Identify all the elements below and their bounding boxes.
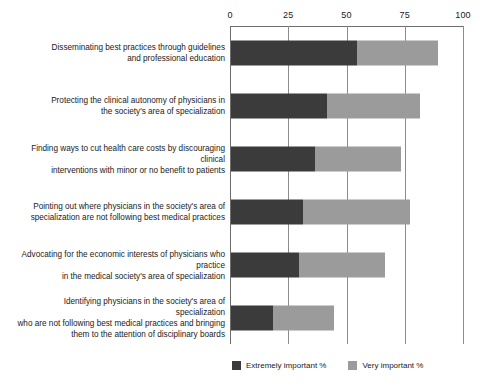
bar-segment-very-important[interactable] — [303, 199, 410, 224]
legend-item[interactable]: Very important % — [348, 361, 423, 370]
bar-row-label-line: Advocating for the economic interests of… — [15, 248, 225, 270]
bar-segment-very-important[interactable] — [357, 40, 439, 65]
stacked-bar[interactable] — [231, 40, 438, 65]
bar-row: Identifying physicians in the society's … — [0, 291, 490, 344]
bar-row: Disseminating best practices through gui… — [0, 26, 490, 79]
stacked-bar[interactable] — [231, 199, 410, 224]
bar-row-label-line: Disseminating best practices through gui… — [15, 42, 225, 53]
stacked-bar[interactable] — [231, 252, 385, 277]
bar-row-label: Pointing out where physicians in the soc… — [15, 201, 225, 223]
legend-item[interactable]: Extremely important % — [232, 361, 326, 370]
bar-segment-very-important[interactable] — [299, 252, 385, 277]
bar-row: Finding ways to cut health care costs by… — [0, 132, 490, 185]
bar-row-label-line: them to the attention of disciplinary bo… — [15, 329, 225, 340]
bar-segment-very-important[interactable] — [273, 305, 334, 330]
x-axis-tick-0: 0 — [227, 10, 232, 20]
bar-row-label-line: Protecting the clinical autonomy of phys… — [15, 95, 225, 106]
bar-row-label-line: who are not following best medical pract… — [15, 318, 225, 329]
bar-segment-very-important[interactable] — [315, 146, 401, 171]
bar-row-label: Disseminating best practices through gui… — [15, 42, 225, 64]
bar-row-label-line: in the medical society's area of special… — [15, 270, 225, 281]
x-axis-tick-100: 100 — [455, 10, 471, 20]
bar-row: Advocating for the economic interests of… — [0, 238, 490, 291]
legend-label: Very important % — [362, 361, 423, 370]
x-axis-tick-labels: 0255075100 — [230, 10, 463, 24]
legend-swatch-icon — [232, 361, 241, 370]
bar-row-label-line: specialization are not following best me… — [15, 212, 225, 223]
legend-label: Extremely important % — [246, 361, 326, 370]
bar-row: Protecting the clinical autonomy of phys… — [0, 79, 490, 132]
bar-segment-extremely-important[interactable] — [231, 40, 357, 65]
bar-row-label: Identifying physicians in the society's … — [15, 296, 225, 340]
chart-legend: Extremely important %Very important % — [232, 361, 423, 370]
bar-row-label-line: Finding ways to cut health care costs by… — [15, 142, 225, 164]
legend-swatch-icon — [348, 361, 357, 370]
bar-row: Pointing out where physicians in the soc… — [0, 185, 490, 238]
bar-row-label-line: and professional education — [15, 53, 225, 64]
bar-row-label: Protecting the clinical autonomy of phys… — [15, 95, 225, 117]
stacked-bar[interactable] — [231, 93, 420, 118]
stacked-bar[interactable] — [231, 305, 334, 330]
bar-segment-extremely-important[interactable] — [231, 305, 273, 330]
bar-row-label-line: the society's area of specialization — [15, 106, 225, 117]
bar-row-label: Advocating for the economic interests of… — [15, 248, 225, 281]
bar-row-label-line: Identifying physicians in the society's … — [15, 296, 225, 318]
bar-segment-very-important[interactable] — [327, 93, 420, 118]
chart-container: 0255075100 Disseminating best practices … — [0, 0, 490, 388]
bar-row-label: Finding ways to cut health care costs by… — [15, 142, 225, 175]
bar-segment-extremely-important[interactable] — [231, 146, 315, 171]
x-axis-tick-25: 25 — [283, 10, 293, 20]
x-axis-tick-50: 50 — [341, 10, 351, 20]
bar-row-label-line: Pointing out where physicians in the soc… — [15, 201, 225, 212]
bar-segment-extremely-important[interactable] — [231, 199, 303, 224]
bar-segment-extremely-important[interactable] — [231, 93, 327, 118]
bar-segment-extremely-important[interactable] — [231, 252, 299, 277]
bar-rows: Disseminating best practices through gui… — [0, 26, 490, 344]
stacked-bar[interactable] — [231, 146, 401, 171]
x-axis-tick-75: 75 — [400, 10, 410, 20]
bar-row-label-line: interventions with minor or no benefit t… — [15, 164, 225, 175]
